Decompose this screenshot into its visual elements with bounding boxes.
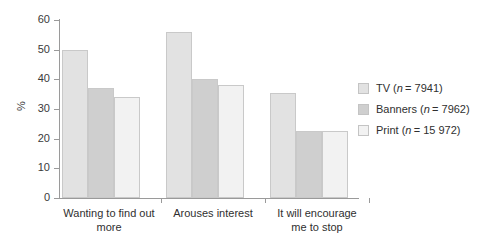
legend-swatch-icon — [358, 125, 369, 136]
bar-group — [166, 20, 260, 198]
y-tick: 50 — [54, 50, 59, 51]
y-tick: 40 — [54, 79, 59, 80]
y-tick-label: 30 — [24, 102, 50, 114]
x-tick — [161, 198, 162, 203]
legend-item[interactable]: Print (n = 15 972) — [358, 124, 470, 136]
bar — [322, 131, 348, 198]
category-label: Wanting to find out more — [50, 206, 168, 234]
legend-swatch-icon — [358, 83, 369, 94]
y-tick: 60 — [54, 20, 59, 21]
bar-group — [270, 20, 364, 198]
bar — [114, 97, 140, 198]
y-tick-label: 60 — [24, 13, 50, 25]
bar-chart-figure: % 0102030405060 Wanting to find out more… — [0, 0, 483, 249]
bar — [192, 79, 218, 198]
category-label: Arouses interest — [154, 206, 272, 220]
bar — [218, 85, 244, 198]
chart-legend: TV (n = 7941)Banners (n = 7962)Print (n … — [358, 82, 470, 136]
bar-group — [62, 20, 156, 198]
y-tick-label: 0 — [24, 191, 50, 203]
bar — [296, 131, 322, 198]
bar — [270, 93, 296, 198]
plot-area — [60, 20, 342, 198]
y-tick: 20 — [54, 139, 59, 140]
bar — [88, 88, 114, 198]
y-tick-label: 40 — [24, 72, 50, 84]
y-tick-label: 50 — [24, 43, 50, 55]
x-tick — [369, 198, 370, 203]
legend-item[interactable]: TV (n = 7941) — [358, 82, 470, 94]
y-tick: 10 — [54, 168, 59, 169]
legend-label: TV (n = 7941) — [376, 82, 443, 94]
category-label: It will encourage me to stop — [258, 206, 376, 234]
bar — [62, 50, 88, 198]
legend-swatch-icon — [358, 104, 369, 115]
bar — [166, 32, 192, 198]
y-tick: 0 — [54, 198, 59, 199]
x-tick — [265, 198, 266, 203]
legend-item[interactable]: Banners (n = 7962) — [358, 103, 470, 115]
legend-label: Banners (n = 7962) — [376, 103, 470, 115]
y-tick-label: 20 — [24, 132, 50, 144]
y-tick-label: 10 — [24, 161, 50, 173]
legend-label: Print (n = 15 972) — [376, 124, 460, 136]
y-tick: 30 — [54, 109, 59, 110]
x-axis-line — [59, 198, 359, 199]
